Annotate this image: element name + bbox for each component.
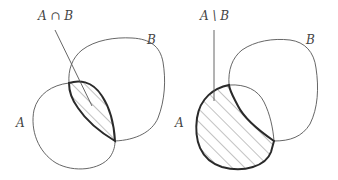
- figure-intersection: [33, 30, 165, 169]
- intersection-title-label: A ∩ B: [38, 10, 73, 22]
- venn-diagrams-svg: [0, 0, 338, 180]
- venn-diagram-stage: A ∩ B A B A \ B A B: [0, 0, 338, 180]
- figure-difference: [190, 30, 318, 175]
- set-a-label: A: [16, 117, 25, 129]
- set-b-label: B: [147, 34, 156, 46]
- set-a-label: A: [175, 117, 184, 129]
- difference-hatch: [190, 80, 280, 175]
- difference-title-label: A \ B: [200, 10, 229, 22]
- set-b-label: B: [306, 34, 315, 46]
